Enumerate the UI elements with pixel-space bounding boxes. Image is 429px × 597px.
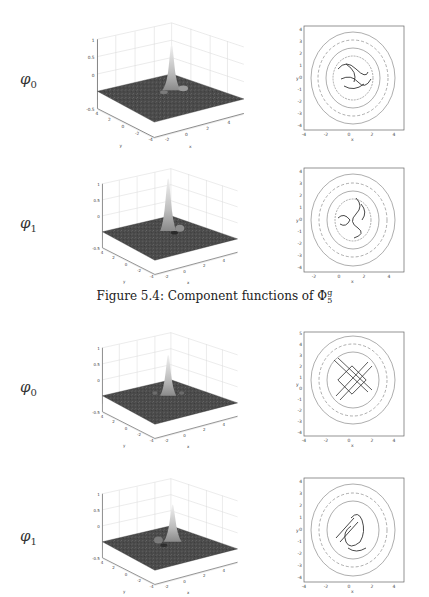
svg-text:4: 4: [299, 479, 302, 484]
svg-text:-4: -4: [302, 438, 307, 443]
surface-plot-phi1-second: [72, 476, 252, 596]
svg-text:-3: -3: [298, 253, 303, 258]
svg-text:-4: -4: [302, 132, 307, 137]
phi-symbol: φ: [20, 378, 31, 396]
svg-text:y: y: [296, 76, 299, 81]
svg-text:-3: -3: [298, 111, 303, 116]
svg-text:-1: -1: [298, 397, 303, 402]
row-label-phi1-a: φ1: [20, 214, 37, 234]
svg-text:1: 1: [299, 375, 302, 380]
svg-text:2: 2: [371, 438, 374, 443]
contour-plot-phi1-fig5-4: 432 10-1 -2-3-4 y -20 24 x: [296, 166, 408, 284]
svg-text:-3: -3: [298, 419, 303, 424]
svg-text:3: 3: [299, 39, 302, 44]
svg-text:4: 4: [393, 132, 396, 137]
svg-text:4: 4: [299, 27, 302, 32]
svg-text:x: x: [351, 443, 354, 448]
svg-text:-1: -1: [298, 229, 303, 234]
svg-text:2: 2: [299, 364, 302, 369]
svg-text:-3: -3: [298, 563, 303, 568]
phi-symbol: φ: [20, 70, 31, 88]
row-label-phi0-a: φ0: [20, 70, 37, 90]
phi-subscript: 0: [31, 79, 37, 90]
svg-text:-1: -1: [298, 87, 303, 92]
svg-text:4: 4: [299, 169, 302, 174]
svg-text:x: x: [351, 589, 354, 594]
svg-text:-1: -1: [298, 539, 303, 544]
svg-text:0: 0: [299, 386, 302, 391]
svg-text:0: 0: [338, 274, 341, 279]
surface-plot-phi0-second: [72, 330, 252, 450]
svg-text:-2: -2: [324, 584, 329, 589]
svg-text:-4: -4: [298, 123, 303, 128]
phi-symbol: φ: [20, 527, 31, 545]
svg-text:x: x: [351, 137, 354, 142]
svg-text:-2: -2: [298, 241, 303, 246]
svg-text:0: 0: [299, 75, 302, 80]
svg-text:1: 1: [299, 515, 302, 520]
phi-subscript: 1: [31, 223, 37, 234]
svg-text:-4: -4: [302, 584, 307, 589]
caption-subscript: 5: [327, 296, 332, 305]
svg-text:2: 2: [299, 51, 302, 56]
svg-text:5: 5: [299, 331, 302, 336]
svg-text:-2: -2: [324, 438, 329, 443]
svg-text:-2: -2: [298, 408, 303, 413]
svg-text:3: 3: [299, 353, 302, 358]
svg-text:y: y: [296, 218, 299, 223]
row-label-phi0-b: φ0: [20, 378, 37, 398]
svg-text:4: 4: [299, 342, 302, 347]
svg-text:-2: -2: [324, 132, 329, 137]
phi-subscript: 1: [31, 536, 37, 547]
svg-text:3: 3: [299, 491, 302, 496]
svg-text:0: 0: [299, 527, 302, 532]
svg-text:-2: -2: [298, 99, 303, 104]
svg-text:2: 2: [363, 274, 366, 279]
phi-symbol: φ: [20, 214, 31, 232]
contour-plot-phi1-second: 432 10-1 -2-3-4 y -4-20 24 x: [296, 476, 408, 594]
svg-text:4: 4: [393, 584, 396, 589]
svg-text:-4: -4: [298, 430, 303, 435]
svg-text:2: 2: [371, 584, 374, 589]
surface-plot-phi0-fig5-4: [72, 20, 252, 150]
row-label-phi1-b: φ1: [20, 527, 37, 547]
svg-text:y: y: [296, 382, 299, 387]
figure-caption: Figure 5.4: Component functions of Φg5: [0, 288, 429, 305]
svg-text:3: 3: [299, 181, 302, 186]
svg-text:2: 2: [299, 193, 302, 198]
contour-plot-phi0-second: 543 210 -1-2-3 -4 y -4-20 24 x: [296, 330, 408, 448]
svg-text:-2: -2: [312, 274, 317, 279]
contour-plot-phi0-fig5-4: 432 10-1 -2-3-4 y -4-20 24 x: [296, 24, 408, 142]
svg-text:2: 2: [371, 132, 374, 137]
svg-text:4: 4: [388, 274, 391, 279]
phi-subscript: 0: [31, 387, 37, 398]
surface-plot-phi1-fig5-4: [72, 166, 252, 286]
svg-text:y: y: [296, 528, 299, 533]
caption-symbol: Φ: [317, 289, 327, 303]
svg-text:1: 1: [299, 205, 302, 210]
svg-text:2: 2: [299, 503, 302, 508]
caption-text: Figure 5.4: Component functions of: [97, 289, 318, 303]
svg-text:4: 4: [393, 438, 396, 443]
svg-text:x: x: [351, 279, 354, 284]
svg-text:-4: -4: [298, 575, 303, 580]
svg-text:0: 0: [299, 217, 302, 222]
svg-text:1: 1: [299, 63, 302, 68]
svg-text:-4: -4: [298, 265, 303, 270]
svg-text:-2: -2: [298, 551, 303, 556]
